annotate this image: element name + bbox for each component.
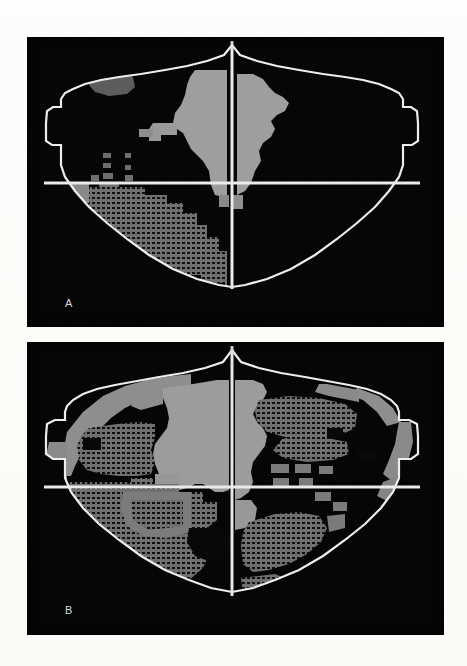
brain-slice-a-svg xyxy=(27,37,444,327)
panel-b-label: B xyxy=(65,604,73,616)
panel-a-label: A xyxy=(65,297,73,309)
brain-slice-b-svg xyxy=(27,342,444,635)
panel-b-image xyxy=(27,342,444,635)
panel-b: B xyxy=(27,342,444,635)
crosshair-vertical-b xyxy=(231,346,234,596)
crosshair-horizontal-a xyxy=(44,182,420,185)
panel-a-image xyxy=(27,37,444,327)
panel-a: A xyxy=(27,37,444,327)
figure-root: A xyxy=(0,0,467,666)
crosshair-vertical-a xyxy=(231,41,234,289)
crosshair-horizontal-b xyxy=(44,486,420,489)
